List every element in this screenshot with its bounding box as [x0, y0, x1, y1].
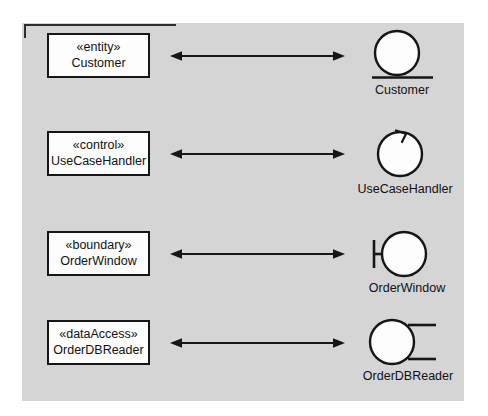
relation-arrow-boundary	[170, 247, 345, 261]
panel-edge-left	[24, 24, 26, 38]
dataaccess-icon-group: OrderDBReader	[352, 316, 462, 386]
class-box-dataaccess[interactable]: «dataAccess» OrderDBReader	[47, 320, 150, 365]
panel-edge-top	[24, 24, 176, 26]
class-name: OrderDBReader	[53, 343, 143, 358]
class-name: UseCaseHandler	[51, 154, 146, 169]
control-icon	[355, 126, 455, 186]
class-stereotype: «entity»	[77, 40, 121, 55]
boundary-icon-label: OrderWindow	[369, 281, 445, 295]
diagram-canvas: «entity» Customer Customer «control» Use…	[0, 0, 488, 416]
class-box-entity[interactable]: «entity» Customer	[47, 33, 150, 78]
entity-icon-label: Customer	[375, 83, 429, 97]
class-stereotype: «dataAccess»	[59, 327, 138, 342]
class-name: OrderWindow	[60, 254, 136, 269]
class-box-control[interactable]: «control» UseCaseHandler	[47, 131, 150, 176]
boundary-icon-group: OrderWindow	[352, 228, 457, 298]
relation-arrow-control	[170, 147, 345, 161]
entity-icon-group: Customer	[355, 28, 455, 98]
class-box-boundary[interactable]: «boundary» OrderWindow	[47, 231, 150, 276]
entity-icon	[355, 28, 455, 88]
class-name: Customer	[71, 56, 125, 71]
boundary-icon	[352, 228, 457, 286]
relation-arrow-dataaccess	[170, 336, 345, 350]
class-stereotype: «control»	[73, 138, 124, 153]
class-stereotype: «boundary»	[65, 238, 131, 253]
dataaccess-icon	[352, 316, 462, 374]
control-icon-label: UseCaseHandler	[357, 182, 452, 196]
dataaccess-icon-label: OrderDBReader	[363, 369, 453, 383]
control-icon-group: UseCaseHandler	[355, 126, 455, 196]
relation-arrow-entity	[170, 49, 345, 63]
